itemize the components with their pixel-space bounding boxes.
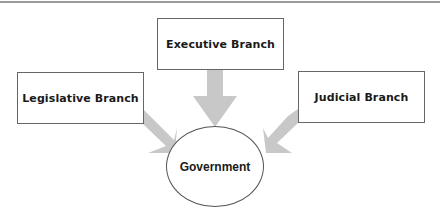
node-label: Legislative Branch	[22, 92, 139, 105]
node-label: Executive Branch	[166, 38, 275, 51]
node-legislative-branch: Legislative Branch	[17, 72, 144, 124]
node-label: Judicial Branch	[315, 91, 409, 104]
node-government: Government	[166, 126, 264, 207]
arrow-executive-to-government	[193, 69, 237, 127]
arrow-judicial-to-government	[263, 109, 298, 153]
node-executive-branch: Executive Branch	[157, 18, 284, 70]
center-label: Government	[180, 160, 251, 174]
node-judicial-branch: Judicial Branch	[298, 71, 425, 123]
